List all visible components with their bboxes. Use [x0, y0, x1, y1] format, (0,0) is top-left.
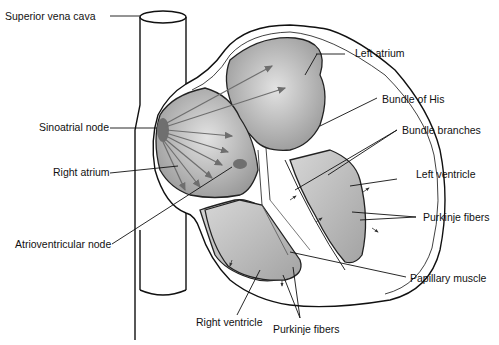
label-left-atrium: Left atrium — [355, 47, 405, 59]
left-ventricle-shape — [290, 150, 366, 263]
label-purkinje-fibers-right: Purkinje fibers — [423, 211, 490, 223]
label-superior-vena-cava: Superior vena cava — [5, 10, 96, 22]
label-purkinje-fibers-bottom: Purkinje fibers — [273, 323, 340, 335]
label-atrioventricular-node: Atrioventricular node — [15, 238, 111, 250]
label-bundle-of-his: Bundle of His — [382, 93, 444, 105]
label-sinoatrial-node: Sinoatrial node — [39, 121, 109, 133]
label-bundle-branches: Bundle branches — [402, 124, 481, 136]
heart-conduction-diagram: Superior vena cava Sinoatrial node Right… — [0, 0, 499, 345]
atrioventricular-node-shape — [233, 159, 247, 169]
label-papillary-muscle: Papillary muscle — [410, 272, 487, 284]
label-right-atrium: Right atrium — [53, 166, 110, 178]
label-right-ventricle: Right ventricle — [196, 316, 263, 328]
label-left-ventricle: Left ventricle — [416, 168, 476, 180]
